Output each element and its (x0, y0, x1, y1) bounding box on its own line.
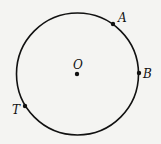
point-a-dot (111, 22, 115, 26)
circle-diagram: OABT (0, 0, 161, 144)
point-a-label: A (117, 11, 127, 25)
point-o-label: O (73, 58, 83, 72)
point-o-dot (75, 72, 79, 76)
point-b-label: B (142, 67, 152, 81)
point-t-dot (23, 104, 27, 108)
point-t-label: T (12, 103, 21, 117)
point-b-dot (137, 71, 141, 75)
